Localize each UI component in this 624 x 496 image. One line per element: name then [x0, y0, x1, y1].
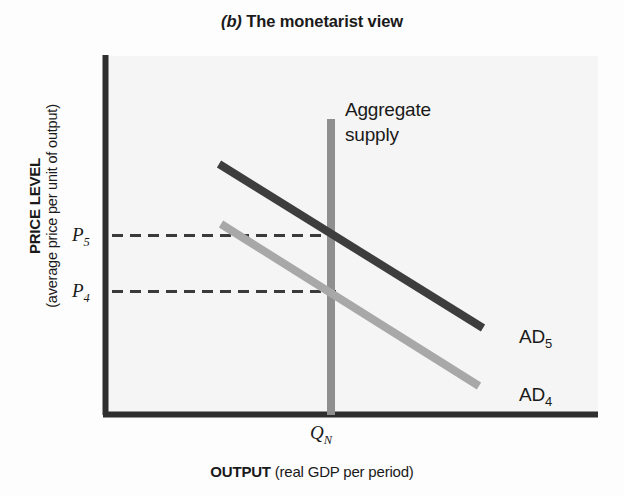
figure-panel-b: (b) The monetarist view PRICE LEVEL (ave…: [0, 0, 624, 496]
y-axis-title: PRICE LEVEL (average price per unit of o…: [26, 96, 72, 316]
y-tick-p5-base: P: [72, 224, 84, 245]
ad4-label-base: AD: [519, 384, 545, 405]
chart-title: (b) The monetarist view: [0, 12, 624, 31]
aggregate-supply-label: Aggregatesupply: [345, 97, 431, 147]
y-tick-p4-sub: 4: [84, 291, 90, 305]
ad5-label: AD5: [519, 326, 552, 351]
ad4-label: AD4: [519, 384, 552, 409]
x-axis-title-rest: (real GDP per period): [271, 463, 414, 480]
y-tick-p4-base: P: [72, 280, 84, 301]
x-tick-label-qn: QN: [310, 422, 332, 448]
panel-letter: (b): [221, 12, 242, 30]
x-axis-title-bold: OUTPUT: [210, 463, 270, 480]
y-axis-title-main: PRICE LEVEL: [26, 96, 43, 316]
x-tick-qn-base: Q: [310, 422, 324, 443]
y-tick-p5-sub: 5: [84, 235, 90, 249]
ad4-label-sub: 4: [545, 394, 552, 409]
y-tick-label-p4: P4: [72, 280, 90, 306]
aggregate-supply-label-line1: Aggregate: [345, 99, 431, 120]
ad5-label-sub: 5: [545, 336, 552, 351]
x-axis-title: OUTPUT (real GDP per period): [0, 463, 624, 480]
ad5-label-base: AD: [519, 326, 545, 347]
y-axis-title-sub: (average price per unit of output): [43, 96, 61, 316]
y-tick-label-p5: P5: [72, 224, 90, 250]
panel-title-rest: The monetarist view: [242, 12, 403, 30]
x-tick-qn-sub: N: [324, 433, 332, 447]
aggregate-supply-label-line2: supply: [345, 124, 399, 145]
